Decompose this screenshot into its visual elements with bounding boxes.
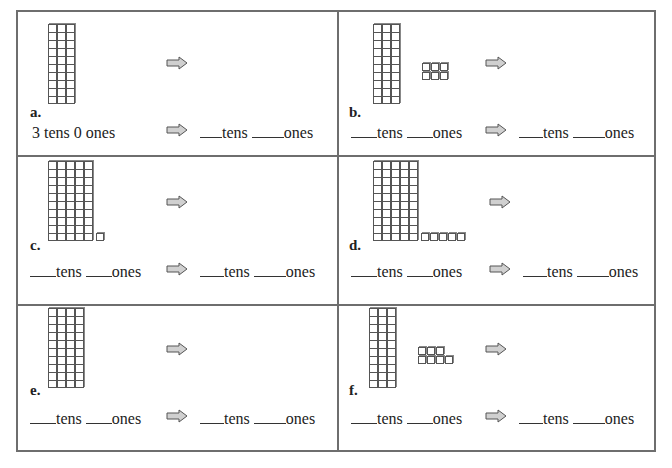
regroup-answer: tens ones <box>519 410 634 428</box>
regroup-answer: tens ones <box>200 410 315 428</box>
tens-rod <box>387 308 396 388</box>
problem-label: c. <box>30 237 40 254</box>
regroup-answer: tens ones <box>200 124 313 142</box>
tens-blank[interactable] <box>519 422 543 424</box>
problem-label: f. <box>349 382 358 399</box>
unit-cube <box>427 347 435 355</box>
right-arrow-icon <box>489 195 511 209</box>
worksheet-grid: a. 3 tens 0 ones tens ones b. tens ones … <box>16 10 656 452</box>
tens-rod <box>66 24 75 104</box>
tens-rod <box>382 24 391 104</box>
right-arrow-icon <box>166 123 188 137</box>
tens-blank[interactable] <box>523 275 547 277</box>
tens-rod <box>57 308 66 388</box>
right-arrow-icon <box>166 56 188 70</box>
given-answer: tens ones <box>351 263 462 281</box>
tens-blank[interactable] <box>200 422 224 424</box>
answer-row: tens ones tens ones <box>339 257 654 281</box>
unit-cube <box>431 72 439 80</box>
unit-cube <box>448 233 456 241</box>
right-arrow-icon <box>166 262 188 276</box>
right-arrow-icon <box>166 409 188 423</box>
tens-rod <box>391 161 400 241</box>
ones-cubes <box>96 233 104 241</box>
tens-rod <box>391 24 400 104</box>
tens-rod <box>57 24 66 104</box>
ones-blank[interactable] <box>86 275 112 277</box>
tens-blank[interactable] <box>351 422 377 424</box>
problem-label: d. <box>349 237 361 254</box>
ones-blank[interactable] <box>573 422 605 424</box>
base-ten-model <box>373 24 448 104</box>
answer-row: tens ones tens ones <box>18 257 337 281</box>
ones-blank[interactable] <box>86 422 112 424</box>
tens-blank[interactable] <box>351 136 377 138</box>
unit-cube <box>427 356 435 364</box>
ones-blank[interactable] <box>573 136 605 138</box>
tens-rod <box>382 161 391 241</box>
answer-row: 3 tens 0 ones tens ones <box>18 118 337 142</box>
right-arrow-icon <box>166 195 188 209</box>
given-answer: tens ones <box>30 263 141 281</box>
unit-cube <box>418 356 426 364</box>
unit-cube <box>445 356 453 364</box>
unit-cube <box>436 347 444 355</box>
tens-blank[interactable] <box>351 275 377 277</box>
base-ten-model <box>373 161 465 241</box>
tens-rod <box>75 308 84 388</box>
tens-rod <box>57 161 66 241</box>
given-answer: tens ones <box>351 410 462 428</box>
right-arrow-icon <box>485 409 507 423</box>
problem-a: a. 3 tens 0 ones tens ones <box>18 12 339 157</box>
ones-blank[interactable] <box>254 422 286 424</box>
tens-rod <box>378 308 387 388</box>
right-arrow-icon <box>485 56 507 70</box>
ones-cubes <box>422 63 448 80</box>
base-ten-model <box>369 308 453 388</box>
tens-blank[interactable] <box>30 422 56 424</box>
tens-rod <box>48 308 57 388</box>
tens-rod <box>48 24 57 104</box>
tens-rod <box>369 308 378 388</box>
ones-blank[interactable] <box>252 136 284 138</box>
unit-cube <box>440 72 448 80</box>
regroup-answer: tens ones <box>519 124 634 142</box>
unit-cube <box>421 233 429 241</box>
ones-blank[interactable] <box>407 422 433 424</box>
ones-cubes <box>421 233 465 241</box>
given-value: 3 tens 0 ones <box>32 124 115 142</box>
unit-cube <box>430 233 438 241</box>
unit-cube <box>418 347 426 355</box>
answer-row: tens ones tens ones <box>339 118 654 142</box>
unit-cube <box>440 63 448 71</box>
tens-rod <box>75 161 84 241</box>
right-arrow-icon <box>166 342 188 356</box>
right-arrow-icon <box>485 342 507 356</box>
ones-blank[interactable] <box>407 275 433 277</box>
problem-f: f. tens ones tens ones <box>339 306 654 450</box>
answer-row: tens ones tens ones <box>18 404 337 428</box>
ones-blank[interactable] <box>254 275 286 277</box>
tens-rod <box>409 161 418 241</box>
unit-cube <box>422 63 430 71</box>
ones-blank[interactable] <box>407 136 433 138</box>
base-ten-model <box>48 308 84 388</box>
problem-label: e. <box>30 382 40 399</box>
tens-rod <box>48 161 57 241</box>
right-arrow-icon <box>489 262 511 276</box>
tens-blank[interactable] <box>200 136 222 138</box>
problem-e: e. tens ones tens ones <box>18 306 339 450</box>
tens-blank[interactable] <box>200 275 224 277</box>
tens-rod <box>373 161 382 241</box>
tens-rod <box>400 161 409 241</box>
ones-blank[interactable] <box>577 275 609 277</box>
tens-blank[interactable] <box>519 136 543 138</box>
unit-cube <box>96 233 104 241</box>
regroup-answer: tens ones <box>200 263 315 281</box>
unit-cube <box>422 72 430 80</box>
tens-blank[interactable] <box>30 275 56 277</box>
unit-cube <box>431 63 439 71</box>
problem-c: c. tens ones tens ones <box>18 157 339 306</box>
given-answer: tens ones <box>30 410 141 428</box>
given-answer: tens ones <box>351 124 462 142</box>
